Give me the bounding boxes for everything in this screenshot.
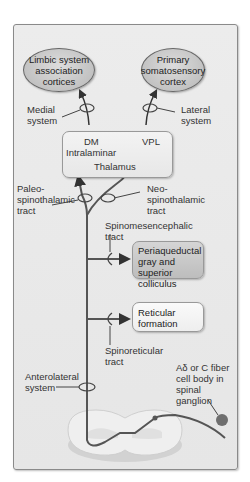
somatosensory-cortex-label: Primary somatosensory cortex xyxy=(141,54,205,87)
thalamus-title: Thalamus xyxy=(94,161,136,172)
limbic-cortex-node: Limbic system association cortices xyxy=(23,48,95,92)
limbic-cortex-label: Limbic system association cortices xyxy=(24,54,94,87)
thalamus-vpl-label: VPL xyxy=(142,136,160,147)
spinomesencephalic-label: Spinomesencephalic tract xyxy=(105,220,195,242)
lateral-system-label: Lateral system xyxy=(181,104,221,126)
medial-system-label: Medial system xyxy=(27,104,65,126)
thalamus-intralaminar-label: Intralaminar xyxy=(66,147,116,158)
spinal-cord-icon xyxy=(68,410,182,462)
anterolateral-system-label: Anterolateral system xyxy=(25,371,75,393)
thalamus-box: DM Intralaminar VPL Thalamus xyxy=(62,131,173,178)
reticular-formation-label: Reticular formation xyxy=(138,307,178,329)
thalamus-dm-label: DM xyxy=(84,136,99,147)
neospinothalamic-label: Neo- spinothalamic tract xyxy=(147,183,207,216)
reticular-formation-box: Reticular formation xyxy=(132,302,204,332)
cell-body-icon xyxy=(216,414,228,426)
ganglion-label: Aδ or C fiber cell body in spinal gangli… xyxy=(176,362,234,406)
spinoreticular-label: Spinoreticular tract xyxy=(105,345,165,367)
paleospinothalamic-label: Paleo- spinothalamic tract xyxy=(17,183,77,216)
periaqueductal-gray-box: Periaqueductal gray and superior collicu… xyxy=(132,241,204,279)
somatosensory-cortex-node: Primary somatosensory cortex xyxy=(141,48,205,92)
